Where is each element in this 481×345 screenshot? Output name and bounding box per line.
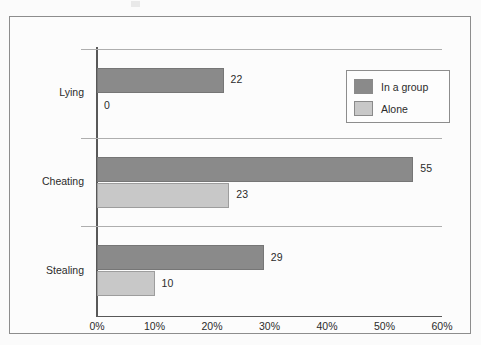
value-axis-tick-labels: 0%10%20%30%40%50%60% — [97, 320, 442, 340]
page-scan-artifact — [131, 1, 140, 7]
chart-legend: In a groupAlone — [346, 70, 450, 123]
legend-item-label: Alone — [381, 103, 408, 115]
bar-lying-in-a-group — [97, 68, 224, 93]
bar-value-label: 22 — [231, 73, 243, 85]
legend-item-alone[interactable]: Alone — [354, 99, 442, 118]
gridline — [81, 49, 442, 50]
bar-stealing-in-a-group — [97, 245, 264, 270]
x-tick-label: 60% — [431, 320, 452, 332]
category-label-cheating: Cheating — [42, 175, 90, 187]
bar-value-label: 23 — [236, 188, 248, 200]
bar-value-label: 55 — [420, 162, 432, 174]
x-tick-label: 0% — [89, 320, 104, 332]
x-tick-label: 20% — [201, 320, 222, 332]
x-tick-label: 40% — [316, 320, 337, 332]
x-tick-label: 50% — [374, 320, 395, 332]
bar-value-label: 29 — [271, 251, 283, 263]
bar-cheating-alone — [97, 183, 229, 208]
gridline — [81, 138, 442, 139]
category-label-lying: Lying — [59, 86, 90, 98]
bar-stealing-alone — [97, 271, 155, 296]
legend-item-label: In a group — [381, 81, 428, 93]
legend-swatch-icon — [354, 101, 373, 116]
category-axis-labels: LyingCheatingStealing — [10, 49, 90, 315]
bar-value-label: 10 — [162, 277, 174, 289]
bar-value-label: 0 — [104, 99, 110, 111]
legend-swatch-icon — [354, 79, 373, 94]
gridline — [81, 226, 442, 227]
x-tick-label: 10% — [144, 320, 165, 332]
legend-item-in-a-group[interactable]: In a group — [354, 77, 442, 96]
bar-cheating-in-a-group — [97, 157, 413, 182]
chart-frame-border: 22055232910 LyingCheatingStealing 0%10%2… — [9, 16, 471, 334]
x-axis-line — [97, 316, 442, 317]
chart-figure: 22055232910 LyingCheatingStealing 0%10%2… — [0, 0, 481, 345]
x-tick-label: 30% — [259, 320, 280, 332]
category-label-stealing: Stealing — [46, 264, 90, 276]
